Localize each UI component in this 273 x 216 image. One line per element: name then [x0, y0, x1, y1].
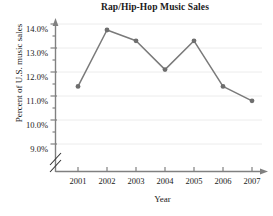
x-axis-label: Year	[55, 194, 270, 204]
data-point	[192, 38, 197, 43]
data-point	[221, 84, 226, 89]
data-point	[105, 28, 110, 33]
x-tick-label: 2007	[232, 176, 272, 186]
gridlines	[57, 24, 263, 144]
data-series-line	[78, 30, 252, 101]
y-axis-arrow-icon	[53, 18, 59, 26]
data-point	[76, 84, 81, 89]
chart-container: Rap/Hip-Hop Music Sales Percent of U.S. …	[0, 0, 273, 216]
x-axis-arrow-icon	[260, 169, 268, 175]
cutoff-caption-text	[10, 207, 210, 215]
data-point	[134, 38, 139, 43]
data-point	[163, 67, 168, 72]
data-point	[250, 98, 255, 103]
